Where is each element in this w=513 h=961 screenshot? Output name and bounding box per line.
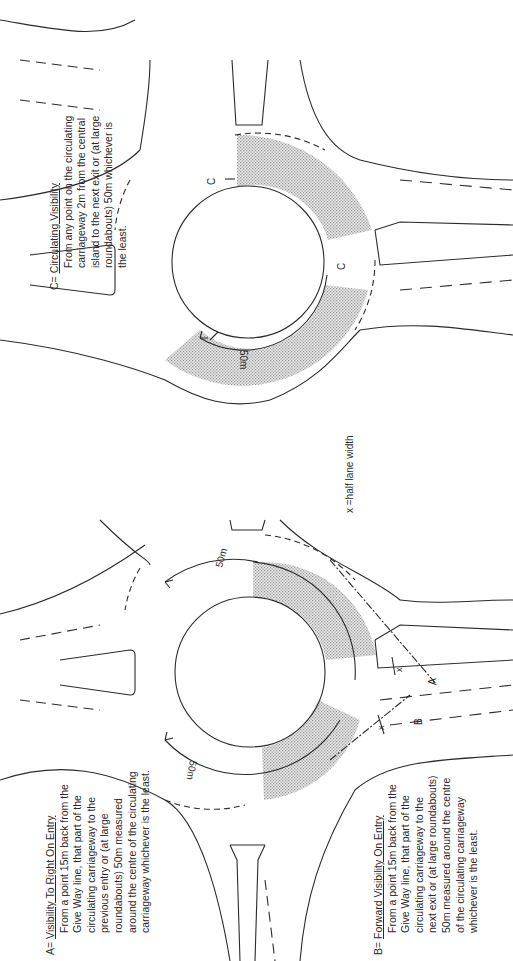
definition-a-body: From a point 15m back from the Give Way … [58, 770, 153, 955]
label-a-right: A [427, 678, 438, 685]
label-50m-upper: 50m [213, 547, 229, 569]
definition-b-body: From a point 15m back from the Give Way … [386, 775, 481, 955]
definition-c: C= Circulating Visibility From any point… [48, 116, 130, 290]
label-b: B [413, 718, 424, 725]
central-island-2 [172, 186, 324, 338]
central-island [175, 597, 325, 747]
label-c-top: C [206, 178, 217, 185]
definition-c-body: From any point on the circulating carria… [62, 116, 130, 290]
shaded-zone-c1 [237, 135, 372, 240]
definition-a-title: Visibility To Right On Entry [44, 816, 56, 939]
shaded-zone-a [253, 562, 376, 660]
definition-b-title: Forward Visibility On Entry [372, 815, 384, 939]
label-c-right: C [336, 263, 347, 270]
definition-b-key: B= [372, 942, 384, 955]
label-x-2: x [376, 725, 386, 730]
definition-b: B= Forward Visibility On Entry From a po… [372, 775, 481, 955]
label-50m-lower: 50m [185, 760, 199, 781]
definition-a: A= Visibility To Right On Entry From a p… [44, 770, 153, 955]
label-50m-c: 50m [238, 350, 249, 369]
label-x-1: x [394, 667, 404, 672]
definition-a-key: A= [44, 942, 56, 955]
half-lane-width-note: x =half lane width [344, 435, 355, 513]
definition-c-title: Circulating Visibility [48, 183, 60, 273]
definition-c-key: C= [48, 276, 60, 290]
